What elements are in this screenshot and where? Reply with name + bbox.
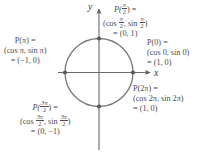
function-p: P(	[33, 103, 41, 112]
point-label-pi-line2: (cos π, sin π)	[4, 46, 46, 56]
point-pi	[63, 70, 67, 74]
point-label-half-pi-line2: (cos π2, sin π2)	[103, 16, 147, 30]
x-axis-label: x	[154, 68, 158, 78]
point-label-two-pi: P(2π) = (cos 2π, sin 2π) = (1, 0)	[133, 84, 184, 115]
point-label-pi: P(π) = (cos π, sin π) = (−1, 0)	[4, 36, 46, 67]
point-label-zero-line1: P(0) =	[147, 38, 189, 48]
fraction-cos-arg: 3π2	[36, 114, 44, 128]
unit-circle-figure: y x P(π2) = (cos π2, sin π2) = (0, 1) P(…	[0, 0, 206, 157]
point-label-pi-line1: P(π) =	[4, 36, 46, 46]
fraction-three-half-pi: 3π2	[40, 100, 48, 114]
y-axis-label: y	[88, 2, 92, 12]
point-half-pi	[97, 36, 101, 40]
point-label-zero: P(0) = (cos 0, sin 0) = (1, 0)	[147, 38, 189, 69]
point-label-half-pi-line1: P(π2) =	[103, 2, 147, 16]
point-label-zero-line3: = (1, 0)	[147, 58, 189, 68]
point-zero	[131, 70, 135, 74]
point-label-pi-line3: = (−1, 0)	[4, 56, 46, 66]
point-label-three-half-pi-line1: P(3π2) =	[20, 100, 71, 114]
fraction-sin-arg: 3π2	[60, 114, 68, 128]
function-p: P(	[114, 5, 122, 14]
point-label-three-half-pi-line2: (cos 3π2, sin 3π2)	[20, 114, 71, 128]
point-label-two-pi-line3: = (1, 0)	[133, 104, 184, 114]
point-label-half-pi: P(π2) = (cos π2, sin π2) = (0, 1)	[103, 2, 147, 40]
point-three-half-pi	[97, 104, 101, 108]
point-label-half-pi-line3: = (0, 1)	[103, 29, 147, 39]
point-label-two-pi-line1: P(2π) =	[133, 84, 184, 94]
point-label-three-half-pi: P(3π2) = (cos 3π2, sin 3π2) = (0, −1)	[20, 100, 71, 138]
point-label-zero-line2: (cos 0, sin 0)	[147, 48, 189, 58]
point-label-three-half-pi-line3: = (0, −1)	[20, 127, 71, 137]
point-label-two-pi-line2: (cos 2π, sin 2π)	[133, 94, 184, 104]
